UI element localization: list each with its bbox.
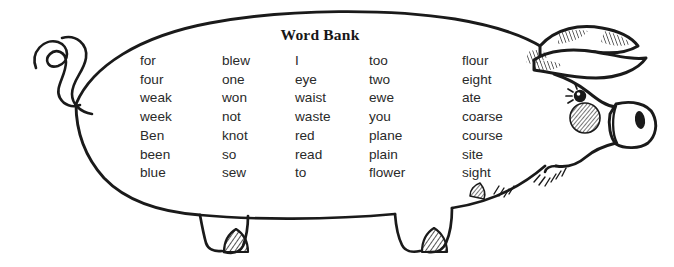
word-item[interactable]: week bbox=[140, 108, 172, 127]
word-item[interactable]: red bbox=[295, 127, 331, 146]
chest-hoof-wedge bbox=[470, 183, 485, 199]
eye bbox=[574, 90, 586, 102]
word-item[interactable]: for bbox=[140, 52, 172, 71]
cheek-blush bbox=[570, 103, 600, 133]
word-item[interactable]: sight bbox=[462, 164, 503, 183]
rear-hoof bbox=[224, 229, 248, 252]
word-item[interactable]: flower bbox=[369, 164, 405, 183]
word-item[interactable]: not bbox=[222, 108, 250, 127]
word-item[interactable]: eight bbox=[462, 71, 503, 90]
worksheet-page: Word Bank for four weak week Ben been bl… bbox=[0, 0, 674, 267]
word-item[interactable]: ate bbox=[462, 89, 503, 108]
word-item[interactable]: waist bbox=[295, 89, 331, 108]
word-item[interactable]: plain bbox=[369, 146, 405, 165]
curly-tail bbox=[35, 37, 92, 114]
word-column-3: I eye waist waste red read to bbox=[295, 52, 331, 183]
word-item[interactable]: flour bbox=[462, 52, 503, 71]
snout bbox=[609, 102, 655, 147]
word-item[interactable]: knot bbox=[222, 127, 250, 146]
word-column-1: for four weak week Ben been blue bbox=[140, 52, 172, 183]
word-item[interactable]: blue bbox=[140, 164, 172, 183]
word-item[interactable]: to bbox=[295, 164, 331, 183]
word-item[interactable]: two bbox=[369, 71, 405, 90]
word-item[interactable]: blew bbox=[222, 52, 250, 71]
word-column-5: flour eight ate coarse course site sight bbox=[462, 52, 503, 183]
word-item[interactable]: too bbox=[369, 52, 405, 71]
word-item[interactable]: waste bbox=[295, 108, 331, 127]
word-item[interactable]: won bbox=[222, 89, 250, 108]
front-hoof bbox=[422, 228, 447, 252]
word-item[interactable]: weak bbox=[140, 89, 172, 108]
word-item[interactable]: plane bbox=[369, 127, 405, 146]
word-item[interactable]: coarse bbox=[462, 108, 503, 127]
word-bank-title: Word Bank bbox=[255, 26, 385, 44]
word-item[interactable]: you bbox=[369, 108, 405, 127]
word-item[interactable]: four bbox=[140, 71, 172, 90]
word-item[interactable]: I bbox=[295, 52, 331, 71]
word-item[interactable]: sew bbox=[222, 164, 250, 183]
eye-highlight bbox=[577, 92, 581, 96]
word-item[interactable]: so bbox=[222, 146, 250, 165]
word-item[interactable]: course bbox=[462, 127, 503, 146]
word-column-2: blew one won not knot so sew bbox=[222, 52, 250, 183]
word-item[interactable]: site bbox=[462, 146, 503, 165]
word-item[interactable]: one bbox=[222, 71, 250, 90]
lower-ear bbox=[534, 50, 646, 78]
word-column-4: too two ewe you plane plain flower bbox=[369, 52, 405, 183]
word-item[interactable]: ewe bbox=[369, 89, 405, 108]
word-item[interactable]: Ben bbox=[140, 127, 172, 146]
word-item[interactable]: eye bbox=[295, 71, 331, 90]
word-item[interactable]: been bbox=[140, 146, 172, 165]
word-item[interactable]: read bbox=[295, 146, 331, 165]
